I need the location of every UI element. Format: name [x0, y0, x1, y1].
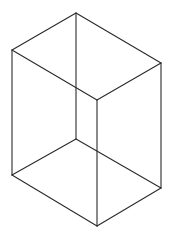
- edge-top-back-to-top-right: [76, 13, 161, 63]
- cuboid-edges: [12, 13, 161, 226]
- edge-bottom-right-to-bottom-front: [97, 188, 161, 226]
- edge-bottom-back-to-bottom-left: [12, 139, 76, 175]
- edge-top-right-to-top-front: [97, 63, 161, 100]
- edge-top-left-to-top-front: [12, 50, 97, 100]
- edge-bottom-left-to-bottom-front: [12, 175, 97, 226]
- edge-bottom-back-to-bottom-right: [76, 139, 161, 188]
- cuboid-wireframe-diagram: [0, 0, 172, 234]
- edge-top-back-to-top-left: [12, 13, 76, 50]
